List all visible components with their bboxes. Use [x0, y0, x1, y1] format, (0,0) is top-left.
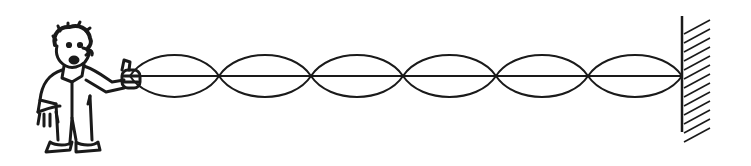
fixed-wall: [682, 16, 710, 142]
diagram-canvas: [0, 0, 751, 166]
standing-wave-diagram: [0, 0, 751, 166]
person-figure: [38, 22, 140, 152]
standing-wave: [130, 55, 682, 97]
